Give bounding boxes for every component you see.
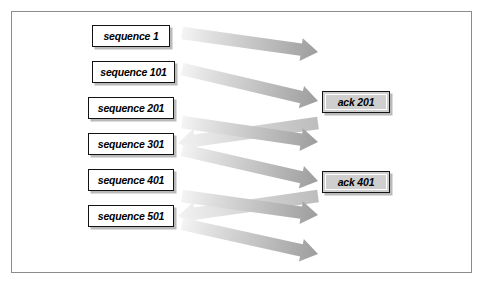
flow-arrow	[179, 58, 320, 112]
sequence-box: sequence 1	[92, 25, 170, 47]
flow-arrow	[179, 139, 320, 192]
ack-box: ack 201	[322, 91, 390, 113]
sequence-box-label: sequence 201	[98, 102, 164, 114]
sequence-box-label: sequence 401	[98, 174, 164, 186]
ack-box: ack 401	[322, 171, 390, 193]
sequence-box: sequence 501	[88, 205, 174, 227]
sequence-box: sequence 301	[88, 133, 174, 155]
ack-box-label: ack 401	[338, 176, 375, 188]
sequence-box-label: sequence 301	[98, 138, 164, 150]
sequence-box: sequence 401	[88, 169, 174, 191]
arrow-layer	[0, 0, 487, 287]
flow-arrow	[180, 213, 321, 265]
sequence-box: sequence 201	[88, 97, 174, 119]
sequence-box-label: sequence 501	[98, 210, 164, 222]
sequence-box: sequence 101	[92, 61, 175, 83]
sequence-box-label: sequence 1	[103, 30, 158, 42]
flow-arrow	[180, 185, 319, 227]
ack-box-label: ack 201	[338, 96, 375, 108]
sequence-box-label: sequence 101	[100, 66, 166, 78]
flow-arrow	[180, 22, 319, 64]
tcp-sequence-diagram: sequence 1 sequence 101 sequence 201 seq…	[0, 0, 487, 287]
